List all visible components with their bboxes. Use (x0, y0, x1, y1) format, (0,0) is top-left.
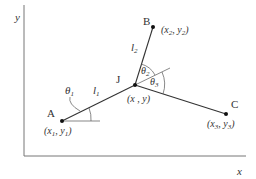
point-c-label: C (231, 98, 238, 110)
theta1-label: θ1 (65, 84, 74, 98)
point-b-label: B (143, 15, 150, 27)
theta1-arc (89, 108, 91, 121)
theta3-label: θ3 (150, 76, 159, 89)
theta1-leader (70, 97, 80, 111)
theta2-label: θ2 (141, 65, 150, 78)
point-c-coords: (x3, y3) (207, 118, 235, 131)
point-j-label: J (116, 73, 121, 85)
link-l2-label: l2 (131, 41, 138, 55)
point-b-dot (151, 25, 155, 29)
point-j-dot (133, 83, 137, 87)
point-a-label: A (47, 107, 55, 119)
linkage-diagram: y x A B C J (x1, y1) (x2, y2) (x3, y3) (… (0, 0, 256, 179)
point-a-dot (60, 119, 64, 123)
link-l1-label: l1 (93, 84, 100, 98)
point-b-coords: (x2, y2) (161, 24, 189, 37)
point-a-coords: (x1, y1) (44, 125, 72, 138)
point-j-coords: (x , y) (127, 93, 151, 105)
y-axis-label: y (14, 11, 20, 23)
x-axis-label: x (236, 165, 242, 177)
theta3-arc (162, 72, 165, 94)
point-c-dot (224, 112, 228, 116)
